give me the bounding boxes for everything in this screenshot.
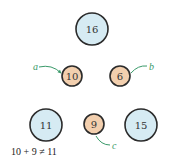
label-b-annotation: b bbox=[131, 61, 154, 73]
diagram-canvas: 16 10 6 11 9 15 a b c 10 + 9 ≠ 11 bbox=[0, 0, 169, 159]
arrow-a-icon bbox=[39, 66, 61, 73]
node-6: 6 bbox=[110, 66, 130, 86]
node-9: 9 bbox=[84, 114, 104, 134]
node-15: 15 bbox=[125, 109, 157, 141]
equation-text: 10 + 9 ≠ 11 bbox=[11, 146, 57, 157]
node-11: 11 bbox=[30, 109, 62, 141]
node-value: 11 bbox=[40, 120, 53, 131]
label-b: b bbox=[149, 61, 154, 72]
arrow-c-icon bbox=[96, 136, 110, 145]
label-a: a bbox=[33, 61, 38, 72]
node-value: 9 bbox=[91, 119, 97, 130]
label-c: c bbox=[112, 140, 117, 151]
node-value: 16 bbox=[86, 24, 99, 35]
label-a-annotation: a bbox=[33, 61, 62, 74]
node-16: 16 bbox=[76, 13, 108, 45]
node-value: 15 bbox=[135, 120, 148, 131]
node-value: 10 bbox=[66, 71, 79, 82]
label-c-annotation: c bbox=[96, 136, 117, 151]
node-value: 6 bbox=[117, 71, 123, 82]
arrow-b-icon bbox=[131, 66, 147, 73]
node-10: 10 bbox=[62, 66, 82, 86]
